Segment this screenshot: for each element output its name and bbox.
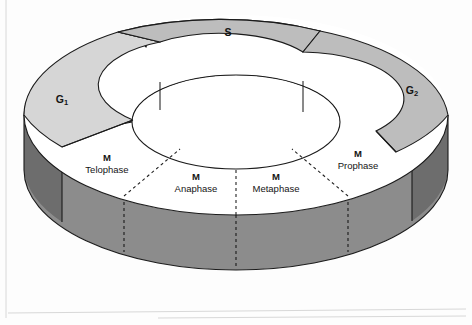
svg-text:M: M bbox=[272, 171, 280, 182]
label-s: S bbox=[224, 26, 231, 38]
svg-text:Prophase: Prophase bbox=[338, 160, 379, 171]
cell-cycle-diagram: G1 S G2 M Telophase M Anaphase M bbox=[0, 0, 472, 325]
svg-text:M: M bbox=[354, 148, 362, 159]
svg-text:M: M bbox=[192, 171, 200, 182]
svg-text:Anaphase: Anaphase bbox=[175, 183, 218, 194]
svg-text:Telophase: Telophase bbox=[85, 164, 128, 175]
svg-text:Metaphase: Metaphase bbox=[252, 183, 299, 194]
figure-canvas: G1 S G2 M Telophase M Anaphase M bbox=[0, 0, 472, 325]
svg-text:M: M bbox=[103, 152, 111, 163]
scan-bottom-edge bbox=[8, 309, 466, 313]
scan-bottom-edge-2 bbox=[158, 316, 466, 318]
